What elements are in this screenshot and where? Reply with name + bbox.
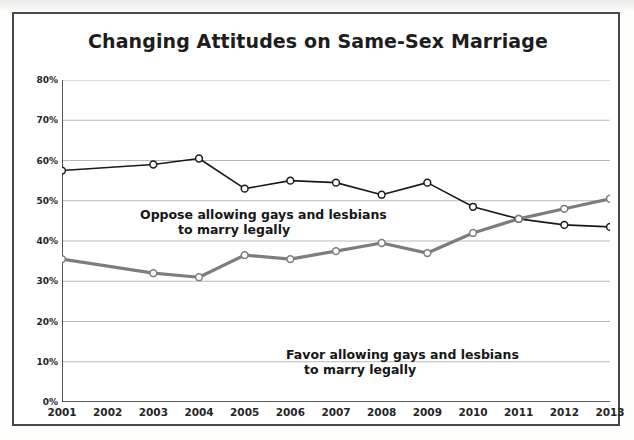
data-point-marker bbox=[196, 155, 203, 162]
y-tick-label: 10% bbox=[36, 357, 58, 367]
gridlines bbox=[62, 80, 610, 362]
x-tick-label: 2001 bbox=[47, 406, 76, 418]
data-point-marker bbox=[607, 224, 610, 231]
data-point-marker bbox=[333, 179, 340, 186]
data-point-marker bbox=[62, 256, 65, 263]
data-point-marker bbox=[241, 185, 248, 192]
data-point-marker bbox=[287, 177, 294, 184]
chart-title: Changing Attitudes on Same-Sex Marriage bbox=[14, 30, 622, 52]
x-tick-label: 2009 bbox=[413, 406, 442, 418]
x-tick-label: 2010 bbox=[458, 406, 487, 418]
y-tick-label: 60% bbox=[36, 156, 58, 166]
data-point-marker bbox=[196, 274, 203, 281]
y-tick-label: 40% bbox=[36, 236, 58, 246]
x-tick-label: 2006 bbox=[276, 406, 305, 418]
data-point-marker bbox=[561, 222, 568, 229]
y-tick-label: 70% bbox=[36, 115, 58, 125]
data-point-marker bbox=[424, 250, 431, 257]
x-tick-label: 2005 bbox=[230, 406, 259, 418]
x-tick-label: 2004 bbox=[184, 406, 213, 418]
plot-area: Oppose allowing gays and lesbians to mar… bbox=[62, 80, 610, 402]
data-point-marker bbox=[378, 191, 385, 198]
line-chart-svg bbox=[62, 80, 610, 402]
data-point-marker bbox=[607, 195, 610, 202]
x-tick-label: 2003 bbox=[139, 406, 168, 418]
x-axis-tick-labels: 2001200220032004200520062007200820092010… bbox=[62, 406, 610, 426]
data-point-marker bbox=[150, 161, 157, 168]
x-tick-label: 2008 bbox=[367, 406, 396, 418]
y-tick-label: 30% bbox=[36, 276, 58, 286]
x-tick-label: 2013 bbox=[595, 406, 624, 418]
x-tick-label: 2011 bbox=[504, 406, 533, 418]
series-line-favor bbox=[62, 199, 610, 277]
y-tick-label: 20% bbox=[36, 317, 58, 327]
y-tick-label: 50% bbox=[36, 196, 58, 206]
x-tick-label: 2007 bbox=[321, 406, 350, 418]
data-point-marker bbox=[515, 215, 522, 222]
data-point-marker bbox=[561, 205, 568, 212]
data-point-marker bbox=[333, 248, 340, 255]
x-tick-label: 2002 bbox=[93, 406, 122, 418]
data-point-marker bbox=[241, 252, 248, 259]
data-point-marker bbox=[378, 240, 385, 247]
figure-frame: Changing Attitudes on Same-Sex Marriage … bbox=[12, 12, 620, 426]
data-point-marker bbox=[287, 256, 294, 263]
data-point-marker bbox=[62, 167, 65, 174]
x-tick-label: 2012 bbox=[550, 406, 579, 418]
y-axis-tick-labels: 0%10%20%30%40%50%60%70%80% bbox=[14, 80, 58, 402]
scanned-page: Changing Attitudes on Same-Sex Marriage … bbox=[0, 0, 634, 440]
data-point-marker bbox=[424, 179, 431, 186]
data-point-marker bbox=[470, 203, 477, 210]
y-tick-label: 80% bbox=[36, 75, 58, 85]
data-series bbox=[62, 158, 610, 277]
data-point-marker bbox=[150, 270, 157, 277]
data-point-marker bbox=[470, 230, 477, 237]
